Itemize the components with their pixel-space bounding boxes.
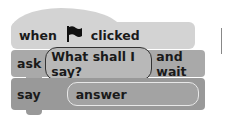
ask-label: ask <box>17 56 41 71</box>
clicked-label: clicked <box>91 28 140 43</box>
and-wait-label: and wait <box>156 49 205 79</box>
scrollbar-line <box>221 28 222 54</box>
ask-question-input[interactable]: What shall I say? <box>45 47 152 81</box>
say-block-notch <box>26 110 42 115</box>
say-block[interactable]: say answer <box>11 78 205 110</box>
answer-reporter[interactable]: answer <box>76 87 127 102</box>
say-message-input[interactable]: answer <box>67 82 199 106</box>
ask-and-wait-block[interactable]: ask What shall I say? and wait <box>11 50 205 77</box>
when-label: when <box>19 28 57 43</box>
when-flag-clicked-block[interactable]: when clicked <box>11 22 195 49</box>
green-flag-icon <box>65 25 83 46</box>
say-label: say <box>17 87 41 102</box>
